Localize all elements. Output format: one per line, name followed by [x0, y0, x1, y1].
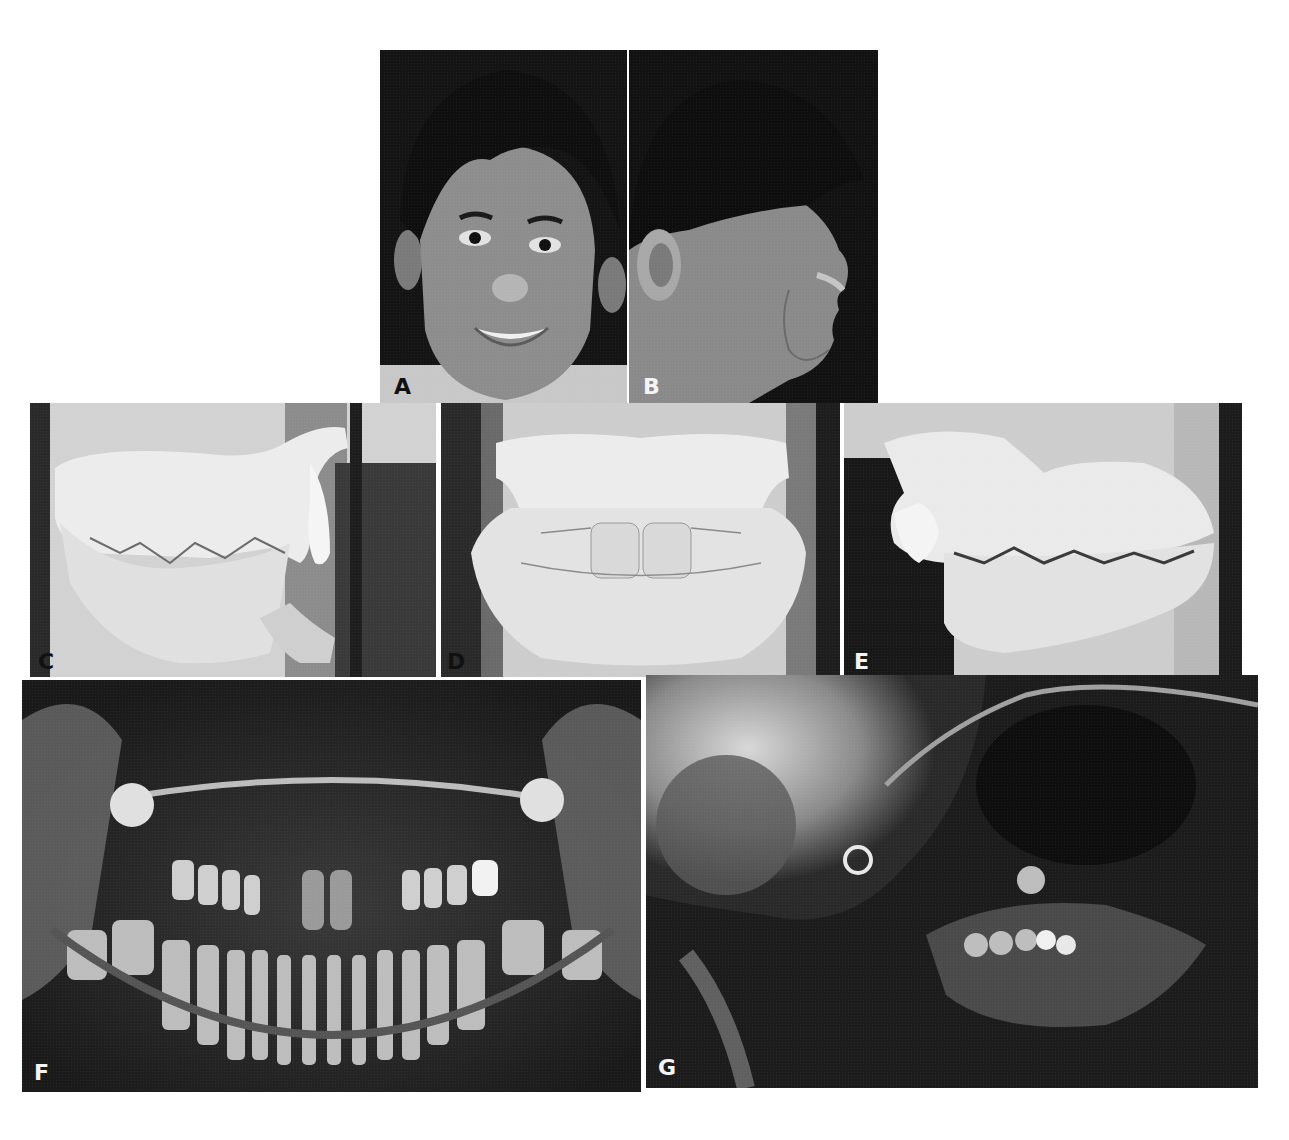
- panel-label-f: F: [34, 1062, 49, 1084]
- panel-a-frontal-photo: A: [380, 50, 627, 403]
- panel-label-c: C: [38, 651, 54, 673]
- right-lateral-casts-image: [30, 403, 436, 677]
- panel-label-g: G: [658, 1057, 676, 1079]
- panel-label-b: B: [643, 376, 660, 398]
- cephalometric-xray-image: [646, 675, 1258, 1088]
- frontal-casts-image: [441, 403, 840, 677]
- panel-label-a: A: [394, 376, 411, 398]
- left-lateral-casts-image: [844, 403, 1242, 677]
- panel-label-e: E: [854, 651, 869, 673]
- panel-label-d: D: [447, 651, 465, 673]
- panel-f-panoramic-radiograph: F: [22, 680, 641, 1092]
- panel-b-profile-photo: B: [629, 50, 878, 403]
- profile-face-image: [629, 50, 878, 403]
- panoramic-xray-image: [22, 680, 641, 1092]
- panel-g-cephalometric-radiograph: G: [646, 675, 1258, 1088]
- panel-c-right-lateral-casts: C: [30, 403, 436, 677]
- frontal-face-image: [380, 50, 627, 403]
- panel-d-frontal-casts: D: [441, 403, 840, 677]
- panel-e-left-lateral-casts: E: [844, 403, 1242, 677]
